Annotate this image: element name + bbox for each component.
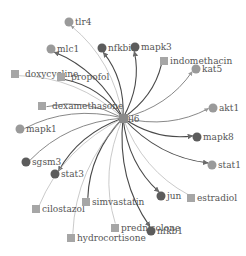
node-label-stat3: stat3	[61, 169, 84, 179]
hub-node-group: il6	[119, 114, 140, 124]
gene-node-marker[interactable]	[157, 192, 166, 201]
nodes-layer: tlr4mlc1nfkbiamapk3indomethacinkat5doxyc…	[11, 17, 241, 243]
gene-node-marker[interactable]	[22, 158, 31, 167]
node-label-kat5: kat5	[202, 64, 222, 74]
gene-node-marker[interactable]	[208, 161, 217, 170]
node-mapk8[interactable]: mapk8	[193, 132, 235, 142]
node-mlc1[interactable]: mlc1	[47, 44, 80, 54]
node-mapk1[interactable]: mapk1	[16, 124, 57, 134]
drug-node-marker[interactable]	[160, 57, 168, 65]
node-stat1[interactable]: stat1	[208, 160, 241, 170]
node-cilostazol[interactable]: cilostazol	[32, 204, 85, 214]
gene-node-marker[interactable]	[51, 170, 60, 179]
edge-simvastatin	[88, 118, 123, 198]
node-label-hydrocortisone: hydrocortisone	[77, 233, 146, 243]
node-sgsm3[interactable]: sgsm3	[22, 157, 62, 167]
node-mapk3[interactable]: mapk3	[131, 42, 173, 52]
drug-node-marker[interactable]	[67, 234, 75, 242]
node-hydrocortisone[interactable]: hydrocortisone	[67, 233, 146, 243]
gene-node-marker[interactable]	[209, 104, 218, 113]
node-jun[interactable]: jun	[157, 191, 182, 201]
node-akt1[interactable]: akt1	[209, 103, 240, 113]
node-tlr4[interactable]: tlr4	[65, 17, 92, 27]
node-label-simvastatin: simvastatin	[92, 197, 145, 207]
node-doxycycline[interactable]: doxycycline	[11, 69, 78, 79]
drug-node-marker[interactable]	[111, 224, 119, 232]
gene-node-marker[interactable]	[193, 133, 202, 142]
node-label-akt1: akt1	[219, 103, 239, 113]
gene-node-marker[interactable]	[65, 18, 74, 27]
node-estradiol[interactable]: estradiol	[187, 193, 237, 203]
node-stat3[interactable]: stat3	[51, 169, 85, 179]
node-label-mapk3: mapk3	[141, 42, 172, 52]
node-label-propofol: propofol	[71, 72, 109, 82]
edge-prednisolone	[109, 118, 123, 224]
node-label-mapk8: mapk8	[203, 132, 234, 142]
node-label-tlr4: tlr4	[75, 17, 92, 27]
node-propofol[interactable]: propofol	[57, 72, 109, 82]
node-kat5[interactable]: kat5	[192, 64, 223, 74]
drug-node-marker[interactable]	[11, 70, 19, 78]
edge-mapk3	[123, 51, 136, 118]
node-label-mapk1: mapk1	[26, 124, 57, 134]
drug-node-marker[interactable]	[57, 73, 65, 81]
gene-node-marker[interactable]	[192, 65, 201, 74]
drug-node-marker[interactable]	[82, 198, 90, 206]
hub-label: il6	[128, 114, 140, 124]
network-diagram: tlr4mlc1nfkbiamapk3indomethacinkat5doxyc…	[0, 0, 246, 256]
drug-node-marker[interactable]	[187, 194, 195, 202]
node-label-mlc1: mlc1	[57, 44, 79, 54]
node-simvastatin[interactable]: simvastatin	[82, 197, 145, 207]
drug-node-marker[interactable]	[32, 205, 40, 213]
node-label-estradiol: estradiol	[197, 193, 237, 203]
node-label-jun: jun	[166, 191, 182, 201]
node-label-stat1: stat1	[218, 160, 241, 170]
gene-node-marker[interactable]	[47, 45, 56, 54]
node-label-dexamethasone: dexamethasone	[52, 101, 123, 111]
drug-node-marker[interactable]	[38, 102, 46, 110]
edge-indomethacin	[123, 65, 161, 118]
gene-node-marker[interactable]	[147, 227, 156, 236]
edge-doxycycline	[19, 76, 123, 118]
node-label-sgsm3: sgsm3	[32, 157, 62, 167]
node-nfkb1[interactable]: nfkb1	[147, 226, 184, 236]
gene-node-marker[interactable]	[131, 43, 140, 52]
gene-node-marker[interactable]	[16, 125, 25, 134]
node-label-nfkb1: nfkb1	[157, 226, 183, 236]
hub-node[interactable]	[119, 114, 128, 123]
gene-node-marker[interactable]	[98, 44, 107, 53]
node-label-cilostazol: cilostazol	[42, 204, 85, 214]
